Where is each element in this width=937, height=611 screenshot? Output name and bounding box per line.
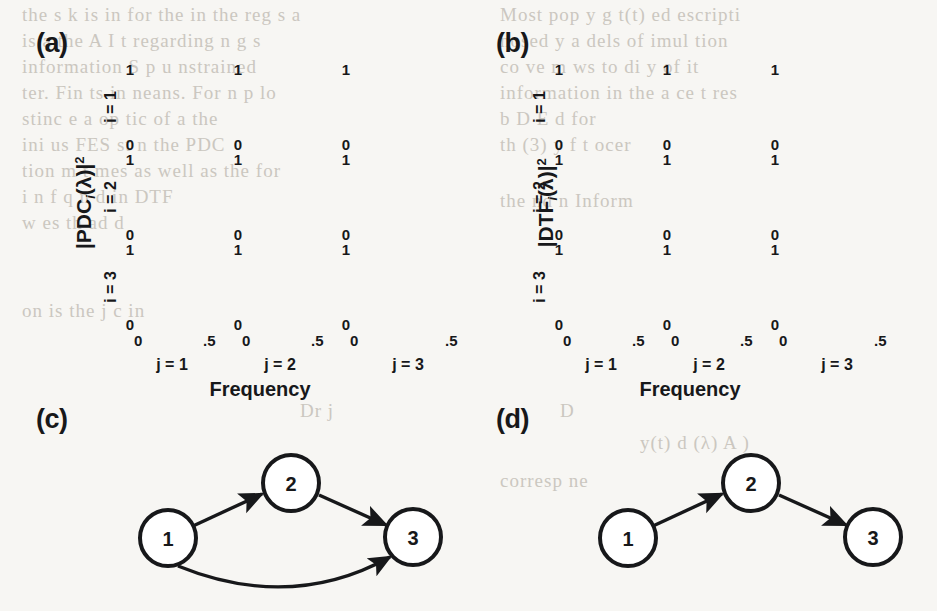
panel-a-xtick-c3-right: .5 <box>445 333 458 348</box>
panel-a-ytick-c2-r1-top: 1 <box>218 62 242 77</box>
panel-a-ytick-c2-r1-bot: 0 <box>218 137 242 152</box>
panel-a-col-label-2: j = 2 <box>240 356 320 374</box>
panel-a-xtick-c1-left: 0 <box>134 333 142 348</box>
panel-b-ytick-c3-r1-top: 1 <box>755 62 779 77</box>
panel-b-ytick-c1-r1-top: 1 <box>539 62 563 77</box>
panel-b-ytick-c3-r2-bot: 0 <box>755 227 779 242</box>
panel-c-node-2-label: 2 <box>285 473 296 495</box>
panel-a-row-label-2: i = 2 <box>102 167 120 227</box>
panel-a-ytick-c3-r1-bot: 0 <box>326 137 350 152</box>
panel-b-ytick-c3-r2-top: 1 <box>755 152 779 167</box>
panel-d-graph: 1 2 3 <box>578 440 937 600</box>
panel-a-ytick-r2-top: 1 <box>110 152 134 167</box>
panel-d-edge-2-3 <box>779 495 846 525</box>
panel-b-ytick-c3-r3-top: 1 <box>755 242 779 257</box>
panel-a-ytick-c3-r1-top: 1 <box>326 62 350 77</box>
panel-b-row-label-3: i = 3 <box>531 257 549 317</box>
panel-b-xtick-c2-right: .5 <box>740 333 753 348</box>
panel-a-x-axis-title: Frequency <box>170 378 350 401</box>
panel-a-y-title-text: |PDCi(λ)|2 <box>72 156 95 249</box>
panel-letter-a: (a) <box>36 28 68 59</box>
panel-c-node-1-label: 1 <box>162 528 173 550</box>
panel-b-ytick-c2-r2-bot: 0 <box>647 227 671 242</box>
panel-b-xtick-c1-right: .5 <box>632 333 645 348</box>
panel-a-ytick-r1-bot: 0 <box>110 137 134 152</box>
panel-a-ytick-c3-r3-top: 1 <box>326 242 350 257</box>
panel-c-edge-1-2 <box>193 494 262 526</box>
panel-b-row-label-2: i = 2 <box>531 167 549 227</box>
panel-d-node-1-label: 1 <box>622 528 633 550</box>
panel-b-ytick-c1-r3-bot: 0 <box>539 317 563 332</box>
panel-b-ytick-c2-r1-top: 1 <box>647 62 671 77</box>
panel-b-xtick-c2-left: 0 <box>671 333 679 348</box>
panel-a-col-label-1: j = 1 <box>132 356 212 374</box>
panel-b-col-label-3: j = 3 <box>797 356 877 374</box>
panel-b-ytick-c2-r1-bot: 0 <box>647 137 671 152</box>
panel-a-xtick-c1-right: .5 <box>203 333 216 348</box>
panel-d-node-3-label: 3 <box>867 527 878 549</box>
panel-a-ytick-c2-r3-bot: 0 <box>218 317 242 332</box>
panel-c-node-3-label: 3 <box>407 527 418 549</box>
panel-b-ytick-c2-r3-bot: 0 <box>647 317 671 332</box>
panel-d-edge-1-2 <box>653 494 722 526</box>
panel-a-ytick-c2-r2-bot: 0 <box>218 227 242 242</box>
panel-a-xtick-c3-left: 0 <box>350 333 358 348</box>
panel-a-ytick-c3-r2-top: 1 <box>326 152 350 167</box>
panel-a-ytick-r3-top: 1 <box>110 242 134 257</box>
panel-letter-b: (b) <box>496 28 529 59</box>
panel-a-xtick-c2-right: .5 <box>311 333 324 348</box>
panel-b-xtick-c3-left: 0 <box>779 333 787 348</box>
panel-b-ytick-c2-r2-top: 1 <box>647 152 671 167</box>
panel-b-ytick-c1-r1-bot: 0 <box>539 137 563 152</box>
panel-a-row-label-1: i = 1 <box>102 77 120 137</box>
panel-d-node-2-label: 2 <box>745 473 756 495</box>
panel-b-ytick-c1-r2-top: 1 <box>539 152 563 167</box>
panel-b-x-axis-title: Frequency <box>600 378 780 401</box>
panel-b-col-label-2: j = 2 <box>669 356 749 374</box>
panel-a-y-axis-title: |PDCi(λ)|2 <box>72 103 97 303</box>
panel-a-col-label-3: j = 3 <box>368 356 448 374</box>
panel-a-ytick-r2-bot: 0 <box>110 227 134 242</box>
panel-b-ytick-c1-r2-bot: 0 <box>539 227 563 242</box>
panel-a-xtick-c2-left: 0 <box>242 333 250 348</box>
panel-a-ytick-c2-r3-top: 1 <box>218 242 242 257</box>
panel-letter-c: (c) <box>36 404 68 435</box>
panel-a-ytick-c3-r3-bot: 0 <box>326 317 350 332</box>
panel-c-edge-1-3 <box>178 557 390 587</box>
panel-b-ytick-c1-r3-top: 1 <box>539 242 563 257</box>
panel-a-row-label-3: i = 3 <box>102 257 120 317</box>
panel-b-xtick-c1-left: 0 <box>563 333 571 348</box>
panel-a-ytick-c3-r2-bot: 0 <box>326 227 350 242</box>
panel-b-xtick-c3-right: .5 <box>874 333 887 348</box>
panel-a-ytick-c2-r2-top: 1 <box>218 152 242 167</box>
panel-b-row-label-1: i = 1 <box>531 77 549 137</box>
panel-letter-d: (d) <box>496 404 529 435</box>
figure-root: (a) |PDCi(λ)|2 i = 1 i = 2 i = 3 1 0 1 0… <box>0 0 937 611</box>
panel-c-edge-2-3 <box>319 495 386 525</box>
panel-c-graph: 1 2 3 <box>118 440 478 600</box>
panel-a-ytick-r3-bot: 0 <box>110 317 134 332</box>
panel-a-ytick-r1-top: 1 <box>110 62 134 77</box>
panel-b-ytick-c3-r3-bot: 0 <box>755 317 779 332</box>
panel-b-ytick-c2-r3-top: 1 <box>647 242 671 257</box>
panel-b-ytick-c3-r1-bot: 0 <box>755 137 779 152</box>
panel-b-col-label-1: j = 1 <box>561 356 641 374</box>
